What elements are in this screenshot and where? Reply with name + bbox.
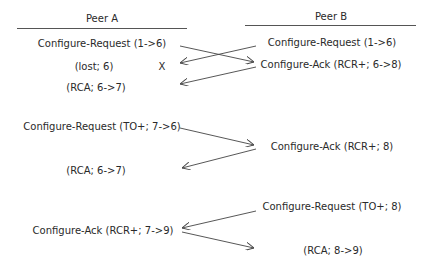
message-arrow — [180, 67, 256, 84]
message-arrow — [180, 46, 254, 62]
message-arrow — [182, 211, 256, 228]
message-arrows — [0, 0, 432, 271]
message-arrow — [182, 149, 256, 168]
message-arrow — [182, 232, 254, 248]
message-arrow — [180, 128, 254, 145]
